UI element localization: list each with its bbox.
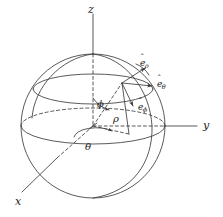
e-rho-label: ˆeρ — [140, 59, 149, 68]
hat-accent-icon: ˆ — [140, 54, 144, 62]
e-rho-vector — [122, 68, 145, 83]
phi-angle-label: ϕ — [97, 99, 104, 109]
spherical-coordinates-figure: z y x ϕ θ ρ ˆeρ ˆeθ ˆeϕ — [0, 0, 223, 217]
e-phi-label: ˆeϕ — [138, 103, 148, 112]
x-axis-line — [22, 158, 57, 192]
diagram-canvas — [0, 0, 223, 217]
equator-front-arc — [21, 126, 165, 144]
projection-radius-dashed — [93, 126, 129, 134]
e-theta-vector — [122, 83, 152, 86]
left-limb-arc — [32, 54, 93, 118]
theta-angle-arc — [74, 128, 112, 137]
y-axis-label: y — [203, 120, 209, 131]
e-theta-label: ˆeθ — [157, 80, 166, 89]
rho-length-label: ρ — [113, 114, 119, 124]
z-axis-label: z — [88, 4, 94, 15]
e-rho-subscript: ρ — [145, 62, 149, 70]
x-axis-label: x — [15, 196, 21, 207]
hat-accent-icon: ˆ — [157, 75, 161, 83]
theta-angle-label: θ — [85, 142, 91, 152]
hat-accent-icon: ˆ — [138, 98, 142, 106]
e-phi-subscript: ϕ — [143, 106, 147, 114]
e-theta-subscript: θ — [162, 83, 166, 91]
